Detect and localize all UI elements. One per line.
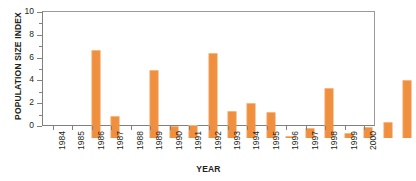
x-tick-mark: [131, 126, 132, 130]
x-tick-mark: [325, 126, 326, 130]
bar-slot: [261, 24, 280, 138]
y-tick-label: 4: [29, 74, 34, 85]
x-tick-mark: [170, 126, 171, 130]
x-tick-mark: [247, 126, 248, 130]
plot-area: [42, 11, 375, 126]
y-tick-label: 6: [29, 52, 34, 63]
x-tick-label-1992: 1992: [213, 131, 223, 163]
x-tick-mark: [189, 126, 190, 130]
x-tick-label-1993: 1993: [232, 131, 242, 163]
x-tick-label-1991: 1991: [193, 131, 203, 163]
x-axis-title: YEAR: [42, 164, 375, 174]
x-tick-mark: [150, 126, 151, 130]
x-tick-label-1998: 1998: [329, 131, 339, 163]
x-axis-tick-labels: 1984198519861987198819891990199119921993…: [42, 131, 375, 163]
x-tick-label-1988: 1988: [135, 131, 145, 163]
bar-1984[interactable]: [91, 50, 100, 138]
bar-slot: [378, 24, 397, 138]
x-tick-label-1989: 1989: [154, 131, 164, 163]
x-tick-label-1995: 1995: [271, 131, 281, 163]
bar-slot: [86, 24, 105, 138]
x-tick-mark: [306, 126, 307, 130]
bar-slot: [359, 24, 378, 138]
bar-slot: [222, 24, 241, 138]
x-tick-mark: [364, 126, 365, 130]
x-tick-label-1986: 1986: [96, 131, 106, 163]
bars-layer: [86, 24, 416, 138]
x-tick-label-1985: 1985: [76, 131, 86, 163]
x-tick-label-1994: 1994: [251, 131, 261, 163]
x-tick-mark: [92, 126, 93, 130]
bar-1999[interactable]: [383, 122, 392, 138]
x-tick-mark: [267, 126, 268, 130]
y-axis-ticks: 0246810: [0, 0, 42, 137]
bar-slot: [300, 24, 319, 138]
bar-slot: [203, 24, 222, 138]
x-tick-label-1999: 1999: [349, 131, 359, 163]
bar-slot: [281, 24, 300, 138]
x-tick-mark: [111, 126, 112, 130]
bar-slot: [183, 24, 202, 138]
y-tick-label: 2: [29, 97, 34, 108]
x-tick-label-1996: 1996: [290, 131, 300, 163]
bar-slot: [242, 24, 261, 138]
x-tick-label-1990: 1990: [174, 131, 184, 163]
bar-2000[interactable]: [403, 80, 412, 138]
x-tick-mark: [209, 126, 210, 130]
bar-slot: [164, 24, 183, 138]
bar-slot: [144, 24, 163, 138]
x-tick-mark: [286, 126, 287, 130]
bar-slot: [105, 24, 124, 138]
x-tick-mark: [72, 126, 73, 130]
x-tick-label-1997: 1997: [310, 131, 320, 163]
bar-slot: [398, 24, 416, 138]
x-tick-mark: [345, 126, 346, 130]
y-tick-label: 8: [29, 29, 34, 40]
bar-slot: [339, 24, 358, 138]
x-tick-mark: [53, 126, 54, 130]
x-tick-mark: [228, 126, 229, 130]
y-tick-label: 10: [25, 6, 34, 17]
x-tick-label-1984: 1984: [57, 131, 67, 163]
bar-slot: [125, 24, 144, 138]
x-tick-label-1987: 1987: [115, 131, 125, 163]
bar-slot: [320, 24, 339, 138]
x-tick-label-2000: 2000: [368, 131, 378, 163]
y-tick-label: 0: [29, 120, 34, 131]
